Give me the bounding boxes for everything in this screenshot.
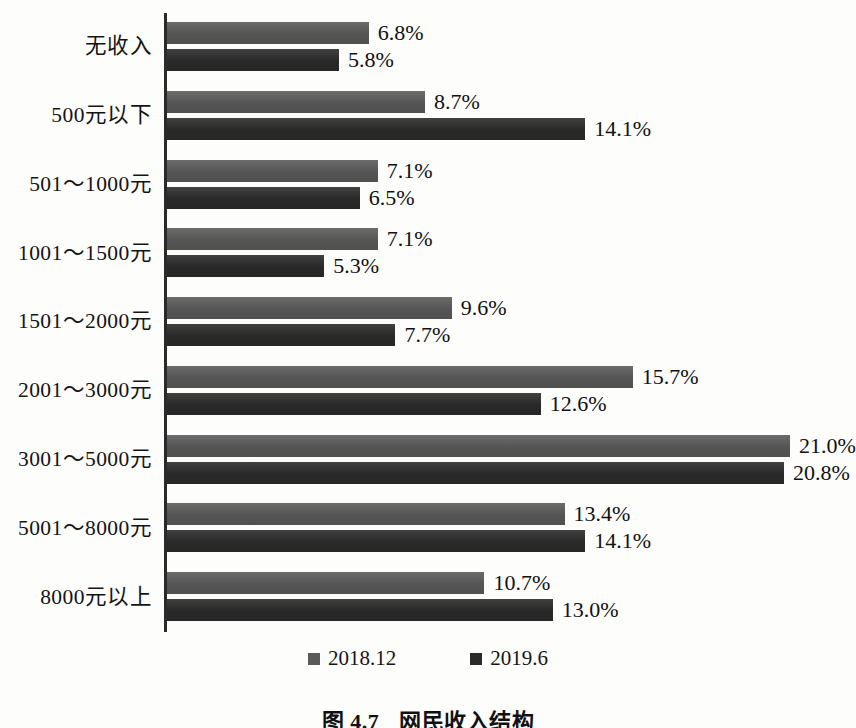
bar-value-label: 14.1%: [594, 118, 651, 140]
bar-series-2019.6: 14.1%: [167, 118, 651, 140]
bar: [167, 91, 425, 113]
caption-title: 网民收入结构: [399, 709, 534, 728]
bar-value-label: 6.5%: [369, 187, 415, 209]
bar-value-label: 7.7%: [404, 324, 450, 346]
bar-row: 8000元以上10.7%13.0%: [0, 563, 856, 632]
bar-rows: 无收入6.8%5.8%500元以下8.7%14.1%501～1000元7.1%6…: [0, 13, 856, 632]
chart-legend: 2018.122019.6: [0, 648, 856, 669]
bar-value-label: 13.0%: [562, 599, 619, 621]
bar-series-2018.12: 15.7%: [167, 366, 699, 388]
bar-value-label: 9.6%: [461, 297, 507, 319]
bar: [167, 187, 360, 209]
bar-value-label: 5.8%: [348, 49, 394, 71]
bar: [167, 160, 378, 182]
bar-row: 2001～3000元15.7%12.6%: [0, 357, 856, 426]
figure-4-7: 无收入6.8%5.8%500元以下8.7%14.1%501～1000元7.1%6…: [0, 0, 856, 728]
category-label: 500元以下: [51, 105, 166, 127]
bar-series-2018.12: 9.6%: [167, 297, 507, 319]
category-label: 5001～8000元: [18, 518, 166, 540]
bar-group: 10.7%13.0%: [167, 563, 856, 632]
legend-label: 2018.12: [328, 648, 396, 669]
bar: [167, 297, 452, 319]
bar-series-2019.6: 14.1%: [167, 530, 651, 552]
bar-value-label: 13.4%: [574, 503, 631, 525]
bar-series-2018.12: 7.1%: [167, 160, 432, 182]
bar: [167, 324, 395, 346]
bar-group: 7.1%5.3%: [167, 219, 856, 288]
figure-caption: 图 4.7网民收入结构: [0, 703, 856, 728]
legend-label: 2019.6: [490, 648, 548, 669]
legend-swatch-icon: [470, 653, 482, 665]
bar-group: 8.7%14.1%: [167, 82, 856, 151]
bar-value-label: 20.8%: [793, 462, 850, 484]
category-label: 1501～2000元: [18, 312, 166, 334]
legend-item: 2019.6: [470, 648, 548, 669]
bar: [167, 22, 369, 44]
bar-series-2018.12: 7.1%: [167, 228, 432, 250]
bar-series-2019.6: 20.8%: [167, 462, 850, 484]
bar-series-2018.12: 6.8%: [167, 22, 424, 44]
bar-group: 7.1%6.5%: [167, 151, 856, 220]
bar: [167, 366, 633, 388]
category-label: 无收入: [85, 37, 166, 59]
bar-value-label: 8.7%: [434, 91, 480, 113]
bar-series-2018.12: 21.0%: [167, 435, 856, 457]
bar: [167, 393, 541, 415]
bar-row: 1501～2000元9.6%7.7%: [0, 288, 856, 357]
category-label: 2001～3000元: [18, 380, 166, 402]
bar-series-2019.6: 5.8%: [167, 49, 394, 71]
bar-value-label: 7.1%: [387, 160, 433, 182]
category-label: 3001～5000元: [18, 449, 166, 471]
chart-plot-area: 无收入6.8%5.8%500元以下8.7%14.1%501～1000元7.1%6…: [0, 0, 856, 645]
bar-value-label: 7.1%: [387, 228, 433, 250]
category-label: 1001～1500元: [18, 243, 166, 265]
legend-swatch-icon: [308, 653, 320, 665]
bar-row: 无收入6.8%5.8%: [0, 13, 856, 82]
bar-group: 13.4%14.1%: [167, 494, 856, 563]
bar-group: 9.6%7.7%: [167, 288, 856, 357]
bar-row: 5001～8000元13.4%14.1%: [0, 494, 856, 563]
bar-value-label: 5.3%: [333, 255, 379, 277]
bar: [167, 503, 565, 525]
bar-value-label: 12.6%: [550, 393, 607, 415]
bar-series-2019.6: 6.5%: [167, 187, 415, 209]
category-label: 8000元以上: [40, 587, 166, 609]
bar: [167, 228, 378, 250]
bar-row: 501～1000元7.1%6.5%: [0, 151, 856, 220]
category-label: 501～1000元: [29, 174, 166, 196]
bar-group: 21.0%20.8%: [167, 426, 856, 495]
bar-value-label: 10.7%: [493, 572, 550, 594]
bar-series-2019.6: 7.7%: [167, 324, 450, 346]
bar-group: 6.8%5.8%: [167, 13, 856, 82]
bar-series-2018.12: 13.4%: [167, 503, 630, 525]
bar-value-label: 15.7%: [642, 366, 699, 388]
caption-number: 图 4.7: [322, 709, 380, 728]
bar: [167, 572, 484, 594]
legend-item: 2018.12: [308, 648, 396, 669]
bar-row: 3001～5000元21.0%20.8%: [0, 426, 856, 495]
bar-value-label: 21.0%: [799, 435, 856, 457]
bar-series-2018.12: 8.7%: [167, 91, 480, 113]
bar-group: 15.7%12.6%: [167, 357, 856, 426]
bar: [167, 599, 553, 621]
bar-series-2018.12: 10.7%: [167, 572, 550, 594]
bar: [167, 435, 790, 457]
bar-series-2019.6: 13.0%: [167, 599, 618, 621]
bar: [167, 530, 585, 552]
bar-row: 1001～1500元7.1%5.3%: [0, 219, 856, 288]
bar: [167, 462, 784, 484]
bar-series-2019.6: 5.3%: [167, 255, 379, 277]
bar: [167, 49, 339, 71]
bar-value-label: 6.8%: [378, 22, 424, 44]
bar: [167, 118, 585, 140]
bar-value-label: 14.1%: [594, 530, 651, 552]
bar: [167, 255, 324, 277]
bar-series-2019.6: 12.6%: [167, 393, 607, 415]
bar-row: 500元以下8.7%14.1%: [0, 82, 856, 151]
